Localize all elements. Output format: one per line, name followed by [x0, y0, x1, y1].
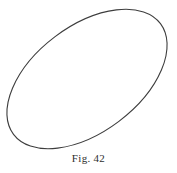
figure-caption: Fig. 42 [0, 152, 177, 165]
figure-drawing [0, 0, 177, 155]
drawing-background [0, 0, 177, 155]
figure-container: Fig. 42 [0, 0, 177, 173]
